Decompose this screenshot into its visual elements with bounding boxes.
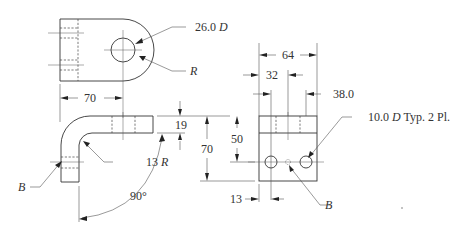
radius-label: R [189, 64, 198, 78]
dim-64: 64 [282, 48, 294, 62]
stray-dot [401, 207, 403, 209]
hole-diameter-label: 26.0 D [195, 20, 228, 34]
dim-70-side: 70 [201, 142, 213, 156]
side-hole-ref-B: B [325, 198, 333, 212]
dim-38: 38.0 [333, 87, 354, 101]
dim-70-top: 70 [84, 91, 96, 105]
angle-label: 90° [130, 189, 147, 203]
dim-13: 13 [230, 192, 242, 206]
dim-50: 50 [231, 132, 243, 146]
dim-19: 19 [175, 118, 187, 132]
dim-32: 32 [266, 68, 278, 82]
front-hole-ref-B: B [18, 180, 26, 194]
technical-drawing: 26.0 D R 70 [0, 0, 462, 233]
top-view [48, 19, 186, 118]
side-hole-callout: 10.0 D Typ. 2 Pl. [368, 110, 450, 124]
bend-radius-label: 13 R [146, 155, 169, 169]
